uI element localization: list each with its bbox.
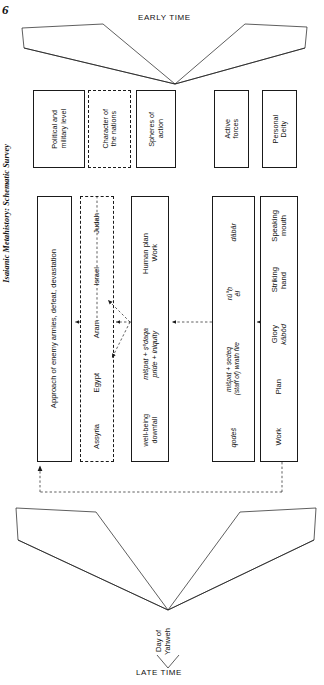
nation-label-assyria: Assyria [93,424,101,449]
force-qodes-line1: qodeš [230,428,238,448]
header-character-line1: Character of [102,109,109,149]
header-box-political-military-level[interactable]: Political and military level [33,90,85,168]
nation-cell-assyria[interactable]: Assyria [81,409,113,463]
human-segment-mishpat-sedaqa[interactable]: mišpaṭ + ṣᵉdaqa pride + iniquity [132,309,168,399]
force-ruah-line2: ēl [234,291,241,297]
header-active-line1: Active [224,119,231,139]
header-active-line2: forces [232,119,239,139]
human-segment-wellbeing-downfall[interactable]: well-being downfall [132,399,168,461]
header-box-character-of-the-nations[interactable]: Character of the nations [88,90,131,168]
day-of-yahweh-line1: Day of [155,630,163,652]
header-box-active-forces[interactable]: Active forces [214,90,249,168]
figure-caption-text: Isaianic Metahistory: Schematic Survey [3,144,12,283]
deity-segment-speaking-mouth[interactable]: Speaking mouth [261,199,297,253]
figure-canvas: 6 Isaianic Metahistory: Schematic Survey… [0,0,324,685]
force-mishpat-line2: (staff of) wrath fire [234,342,241,395]
nation-cell-egypt[interactable]: Egypt [81,356,113,409]
nation-cell-israel[interactable]: Israel [81,250,113,303]
early-time-label: EARLY TIME [138,13,191,22]
main-box-active-forces-terms[interactable]: dābār rū°ḥ ēl mišpaṭ + ṣedeq (staff of) … [212,196,255,462]
deity-striking-line2: hand [280,272,288,289]
main-box-approach-of-enemy-armies[interactable]: Approach of enemy armies, defeat, devast… [37,196,72,462]
approach-of-enemy-armies-text: Approach of enemy armies, defeat, devast… [50,249,58,408]
human-wellbeing-line1: well-being [142,414,149,446]
header-political-line1: Political and [51,110,58,149]
main-box-deity-attributes[interactable]: Speaking mouth Striking hand Glory kābôd… [260,196,298,462]
figure-number: 6 [2,2,9,18]
force-ruah-line1: rū°ḥ [226,287,233,300]
nation-label-egypt: Egypt [93,373,101,392]
header-character-line2: the nations [110,111,117,146]
deity-segment-plan[interactable]: Plan [261,361,297,413]
deity-segment-work[interactable]: Work [261,413,297,461]
header-deity-line2: Deity [280,121,287,137]
feedback-loop [40,462,282,492]
nation-label-judah: Judah [93,213,101,234]
day-of-yahweh-label: Day of Yahweh [156,620,170,662]
deity-work-line1: Work [275,428,283,446]
deity-speaking-line2: mouth [280,215,288,236]
nation-cell-judah[interactable]: Judah [81,197,113,250]
human-plan-line2: Work [151,244,159,262]
header-box-personal-deity[interactable]: Personal Deity [262,90,297,168]
header-deity-line1: Personal [272,115,279,143]
early-time-funnel [22,24,307,84]
header-box-spheres-of-action[interactable]: Spheres of action [136,90,176,168]
deity-glory-line2: kābôd [280,324,288,345]
header-spheres-line2: action [157,119,164,138]
nation-cell-aram[interactable]: Aram [81,303,113,356]
human-mishpat-line1: mišpaṭ + ṣᵉdaqa [142,328,149,380]
force-dabar-line1: dābār [230,223,238,241]
day-of-yahweh-line2: Yahweh [164,628,172,655]
human-segment-plan-work[interactable]: Human plan Work [132,199,168,307]
header-political-line2: military level [60,109,67,149]
force-segment-mishpat-sedeq[interactable]: mišpaṭ + ṣedeq (staff of) wrath fire [213,323,254,415]
late-time-label: LATE TIME [136,668,182,677]
deity-plan-line1: Plan [275,379,283,394]
human-plan-line1: Human plan [142,233,150,274]
main-box-nations-list[interactable]: Judah Israel Aram Egypt Assyria [80,196,114,462]
force-segment-qodes[interactable]: qodeš [213,415,254,461]
main-box-human-plan-work[interactable]: Human plan Work mišpaṭ + ṣᵉdaqa pride + … [131,196,169,462]
deity-glory-line1: Glory [271,325,279,343]
human-wellbeing-line2: downfall [151,417,158,443]
nation-label-israel: Israel [93,267,101,286]
figure-caption: Isaianic Metahistory: Schematic Survey [0,88,14,338]
header-spheres-line1: Spheres of [148,112,155,147]
deity-striking-line1: Striking [271,267,279,292]
deity-segment-glory-kabod[interactable]: Glory kābôd [261,307,297,361]
force-mishpat-line1: mišpaṭ + ṣedeq [226,347,233,392]
nation-label-aram: Aram [93,320,101,338]
force-segment-ruah-el[interactable]: rū°ḥ ēl [213,265,254,323]
deity-segment-striking-hand[interactable]: Striking hand [261,253,297,307]
deity-speaking-line1: Speaking [271,210,279,242]
human-mishpat-line2: pride + iniquity [151,331,158,378]
force-segment-dabar[interactable]: dābār [213,199,254,265]
